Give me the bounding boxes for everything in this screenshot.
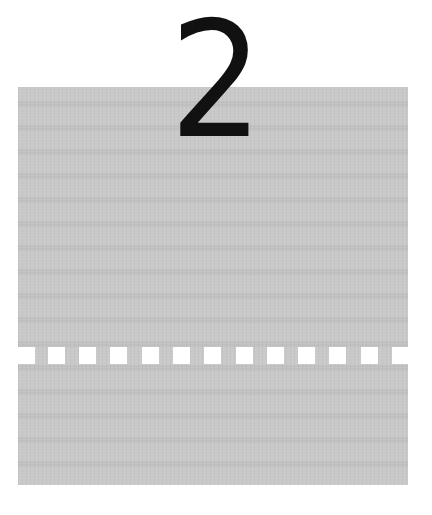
chapter-number: 2 [170, 6, 253, 156]
perforation-hole [110, 347, 127, 364]
perforation-hole [392, 347, 409, 364]
perforation-hole [267, 347, 284, 364]
perforation-hole [48, 347, 65, 364]
perforation-hole [79, 347, 96, 364]
perforation-hole [329, 347, 346, 364]
perforation-hole [361, 347, 378, 364]
perforation-hole [204, 347, 221, 364]
perforation-hole [298, 347, 315, 364]
perforation-hole [18, 347, 35, 364]
perforation-hole [173, 347, 190, 364]
perforation-strip [18, 347, 408, 364]
perforation-hole [236, 347, 253, 364]
perforation-hole [142, 347, 159, 364]
